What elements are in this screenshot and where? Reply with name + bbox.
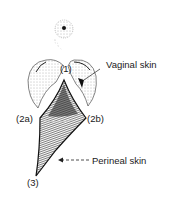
label-vaginal-skin: Vaginal skin xyxy=(106,60,157,70)
label-point-2b: (2b) xyxy=(87,114,104,124)
label-perineal-skin: Perineal skin xyxy=(92,156,146,166)
label-point-2a: (2a) xyxy=(16,114,33,124)
arrow-left-icon xyxy=(58,158,63,163)
label-point-3: (3) xyxy=(27,178,39,188)
anatomical-illustration xyxy=(0,0,181,204)
label-point-1: (1) xyxy=(60,64,72,74)
diagram: (1) (2a) (2b) (3) Vaginal skin Perineal … xyxy=(0,0,181,204)
anal-opening xyxy=(52,20,73,50)
